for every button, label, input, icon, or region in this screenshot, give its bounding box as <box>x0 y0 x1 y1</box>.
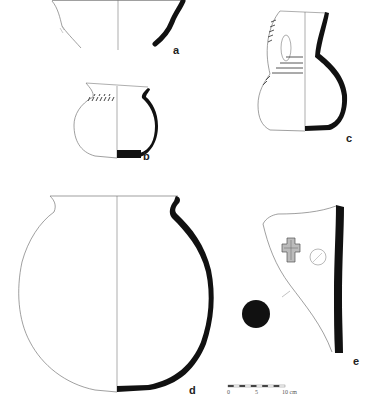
scale-tick-0: 0 <box>227 389 230 395</box>
vessel-b-drawing <box>74 83 158 158</box>
vessel-a-drawing <box>52 0 184 50</box>
scale-tick-5: 5 <box>255 389 258 395</box>
handle-section-blob <box>242 300 270 328</box>
label-d: d <box>189 384 196 396</box>
scale-bar <box>228 385 285 387</box>
label-b: b <box>143 150 150 162</box>
scale-tick-10cm: 10 cm <box>282 389 297 395</box>
sherd-e-drawing <box>263 205 344 353</box>
label-c: c <box>346 132 352 144</box>
vessel-d-drawing <box>19 196 214 392</box>
label-e: e <box>353 355 359 367</box>
vessel-c-drawing <box>258 11 347 131</box>
label-a: a <box>173 44 179 56</box>
pottery-figure <box>0 0 369 404</box>
cross-stamp-icon <box>282 238 300 262</box>
